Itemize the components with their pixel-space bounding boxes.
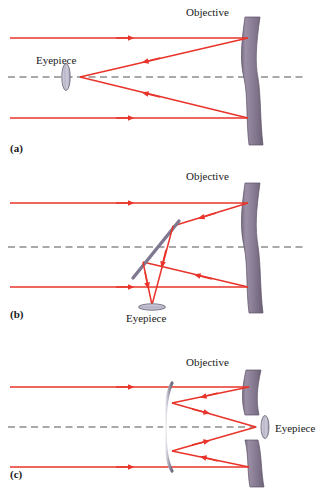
reflected-ray-arrow-a-bottom <box>144 93 160 97</box>
panel-a-group: Objective Eyepiece (a) <box>8 6 306 155</box>
objective-label-c: Objective <box>186 356 229 368</box>
reflected-ray-arrow-a-top <box>144 58 160 62</box>
reflected-ray-a-top <box>80 38 248 77</box>
reflected-ray-arrow-c-bottom <box>202 457 218 461</box>
objective-mirror-c-upper <box>242 370 261 415</box>
reflected-ray-arrow-b-bottom <box>196 275 212 279</box>
panel-c-group: Objective Eyepiece (c) <box>8 356 315 487</box>
secondary-ray-arrow-c-top <box>192 409 208 413</box>
panel-label-b: (b) <box>10 308 24 321</box>
reflected-ray-arrow-b-top <box>200 213 216 218</box>
eyepiece-label-a: Eyepiece <box>36 54 76 66</box>
folded-ray-arrow-b-1 <box>162 250 166 266</box>
panel-label-c: (c) <box>10 468 23 481</box>
objective-label-b: Objective <box>186 170 229 182</box>
secondary-ray-arrow-c-bottom <box>192 441 208 445</box>
panel-b-group: Objective Eyepiece (b) <box>8 170 306 324</box>
objective-label-a: Objective <box>186 6 229 18</box>
eyepiece-lens-c <box>261 416 269 439</box>
reflected-ray-arrow-c-top <box>202 393 218 397</box>
objective-mirror-c-lower <box>245 440 264 487</box>
telescope-figure: Objective Eyepiece (a) <box>0 0 317 493</box>
eyepiece-label-c: Eyepiece <box>275 422 315 434</box>
secondary-ray-c-bottom <box>172 427 256 451</box>
eyepiece-lens-a <box>62 64 70 91</box>
eyepiece-lens-b <box>139 304 166 310</box>
telescope-diagram-svg: Objective Eyepiece (a) <box>0 0 317 493</box>
panel-label-a: (a) <box>10 142 23 155</box>
folded-ray-arrow-b-2 <box>145 272 148 287</box>
objective-mirror-a <box>241 17 263 145</box>
reflected-ray-b-bottom <box>143 262 248 287</box>
eyepiece-label-b: Eyepiece <box>126 312 166 324</box>
reflected-ray-a-bottom <box>80 77 248 118</box>
